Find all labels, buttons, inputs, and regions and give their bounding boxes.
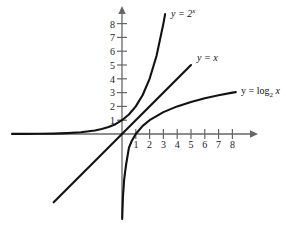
y-tick-label-1: 1 — [103, 116, 115, 126]
y-tick-label-3: 3 — [103, 88, 115, 98]
curve-label-logarithm: y = log2 x — [241, 86, 280, 96]
graph-figure: 1 2 3 4 5 6 7 8 1 2 3 4 5 6 7 8 y = 2x y… — [0, 0, 298, 225]
x-tick-label-1: 1 — [130, 140, 142, 150]
curve-label-exponential-exponent: x — [192, 7, 195, 15]
y-tick-label-4: 4 — [103, 75, 115, 85]
x-tick-label-4: 4 — [171, 140, 183, 150]
curve-label-identity: y = x — [197, 53, 218, 63]
x-tick-label-5: 5 — [185, 140, 197, 150]
curve-label-logarithm-base: 2 — [269, 91, 273, 99]
curve-label-logarithm-text: y = log — [241, 85, 269, 96]
y-tick-label-5: 5 — [103, 61, 115, 71]
y-tick-label-8: 8 — [103, 20, 115, 30]
y-tick-label-7: 7 — [103, 33, 115, 43]
y-tick-label-6: 6 — [103, 47, 115, 57]
x-tick-label-3: 3 — [157, 140, 169, 150]
x-tick-label-6: 6 — [199, 140, 211, 150]
x-tick-label-7: 7 — [213, 140, 225, 150]
curve-logarithm — [122, 92, 236, 219]
x-tick-label-2: 2 — [144, 140, 156, 150]
curve-label-exponential-text: y = 2 — [171, 8, 192, 19]
plot-canvas — [0, 0, 298, 225]
curve-label-exponential: y = 2x — [171, 9, 195, 19]
curve-exponential — [12, 14, 165, 134]
curve-label-logarithm-argument: x — [275, 85, 279, 96]
x-tick-label-8: 8 — [226, 140, 238, 150]
y-tick-label-2: 2 — [103, 102, 115, 112]
